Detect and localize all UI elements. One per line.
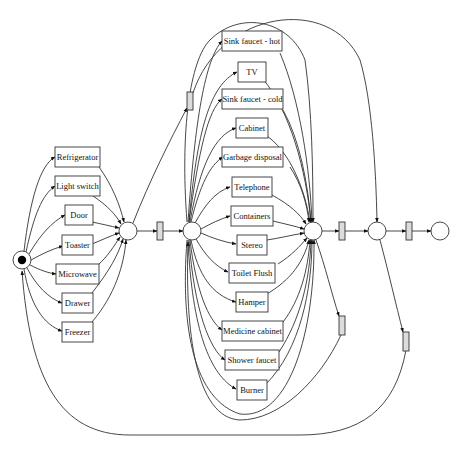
petri-net-diagram: Refrigerator Light switch Door Toaster M… [0,0,467,452]
activity-label: Burner [240,385,264,395]
activity-sink-faucet-cold: Sink faucet - cold [222,89,283,109]
tau-transition-skip-upper [187,92,193,110]
activity-drawer: Drawer [62,293,93,313]
activity-label: Toaster [65,240,90,250]
tau-transition-loop-start [403,332,409,351]
activity-label: Sink faucet - cold [222,94,283,104]
left-activity-group: Refrigerator Light switch Door Toaster M… [55,147,100,342]
activity-toaster: Toaster [62,235,93,255]
activity-telephone: Telephone [232,177,272,197]
tau-transition-loop-middle [339,316,345,335]
middle-activity-group: Sink faucet - hot TV Sink faucet - cold … [222,31,283,400]
activity-freezer: Freezer [62,322,93,342]
tau-transition-p3-p4 [339,222,345,240]
activity-tv: TV [238,62,266,82]
token-icon [18,256,26,264]
activity-burner: Burner [237,380,267,400]
place-join-left [119,222,137,240]
place-start [13,251,31,269]
activity-label: TV [246,67,258,77]
activity-light-switch: Light switch [55,176,100,196]
tau-transition-p1-p2 [157,222,163,240]
activity-label: Stereo [241,240,263,250]
activity-stereo: Stereo [237,235,267,255]
activity-label: Sink faucet - hot [224,36,281,46]
activity-label: Cabinet [239,123,266,133]
activity-label: Door [70,210,88,220]
activity-label: Containers [234,211,271,221]
activity-label: Light switch [56,181,99,191]
place-right [368,222,386,240]
activity-shower-faucet: Shower faucet [225,350,279,370]
activity-label: Garbage disposal [223,152,282,162]
activity-label: Drawer [65,298,91,308]
activity-door: Door [65,205,93,225]
activity-label: Refrigerator [57,152,99,162]
activity-medicine-cabinet: Medicine cabinet [222,321,283,341]
activity-garbage-disposal: Garbage disposal [222,147,283,167]
place-end [431,222,449,240]
activity-label: Telephone [234,182,270,192]
activity-containers: Containers [231,206,273,226]
place-split-middle [183,222,201,240]
activity-microwave: Microwave [56,264,99,284]
activity-hamper: Hamper [236,292,268,312]
activity-label: Shower faucet [228,355,277,365]
activity-label: Microwave [58,269,97,279]
activity-refrigerator: Refrigerator [55,147,100,167]
tau-transition-p4-end [406,222,412,240]
activity-sink-faucet-hot: Sink faucet - hot [222,31,282,51]
activity-label: Medicine cabinet [223,326,282,336]
activity-label: Freezer [65,327,91,337]
activity-cabinet: Cabinet [236,118,268,138]
place-join-middle [304,222,322,240]
activity-label: Hamper [238,297,266,307]
activity-label: Toilet Flush [232,268,273,278]
activity-toilet-flush: Toilet Flush [229,263,275,283]
